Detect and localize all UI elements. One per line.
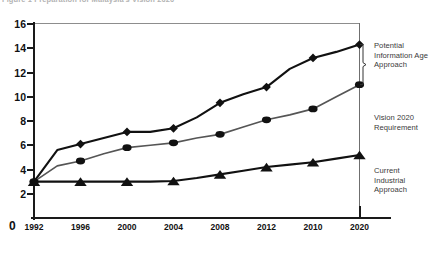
chart-figure: Figure 1 Preparation for Malaysia's Visi… — [0, 0, 448, 253]
annotation-current-industrial-approach: Current Industrial Approach — [374, 166, 407, 195]
annotation-vision-2020-requirement: Vision 2020 Requirement — [374, 113, 418, 132]
brace-potential-approach — [360, 45, 366, 85]
series-current-industrial-approach — [28, 151, 366, 186]
series-vision-2020-requirement — [29, 81, 364, 185]
annotation-potential-information-age-approach: Potential Information Age Approach — [374, 41, 428, 70]
